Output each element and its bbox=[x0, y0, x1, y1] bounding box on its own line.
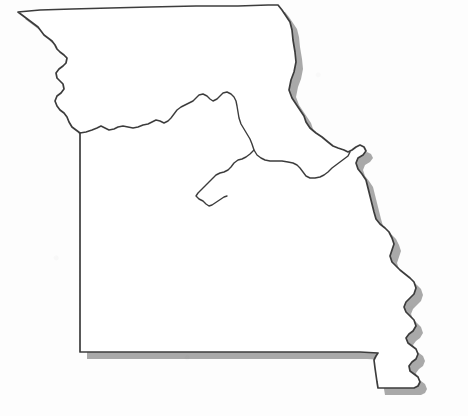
map-figure bbox=[0, 0, 468, 416]
map-canvas bbox=[0, 0, 468, 416]
state-outline-missouri bbox=[18, 5, 420, 388]
